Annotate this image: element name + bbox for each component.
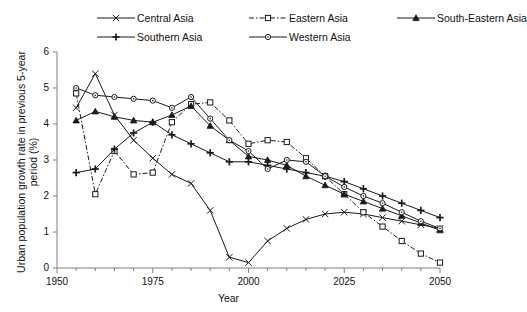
x-tick-label: 2050 xyxy=(417,277,463,287)
y-tick-label: 6 xyxy=(27,47,49,57)
y-tick-label: 3 xyxy=(27,155,49,165)
x-tick-label: 2000 xyxy=(226,277,272,287)
series-eastern-asia xyxy=(74,91,443,265)
x-tick-label: 1950 xyxy=(34,277,80,287)
y-tick-label: 2 xyxy=(27,191,49,201)
y-tick-label: 4 xyxy=(27,119,49,129)
y-tick-label: 0 xyxy=(27,263,49,273)
y-tick-label: 1 xyxy=(27,227,49,237)
y-tick-label: 5 xyxy=(27,83,49,93)
x-tick-label: 2025 xyxy=(321,277,367,287)
x-tick-label: 1975 xyxy=(130,277,176,287)
